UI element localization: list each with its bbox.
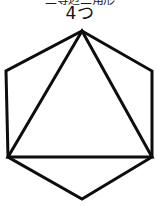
figure-root: 二等辺三角形 4つ [0, 0, 160, 206]
inscribed-triangle-outline [8, 31, 152, 157]
geometry-diagram [0, 0, 160, 206]
